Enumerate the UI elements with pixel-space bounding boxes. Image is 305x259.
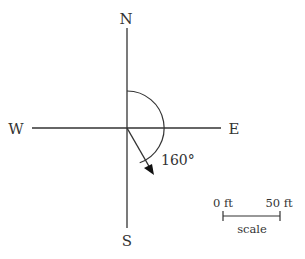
angle-label: 160° [161, 152, 195, 168]
angle-arc [127, 91, 164, 163]
scale-start-label: 0 ft [213, 196, 233, 210]
west-label: W [8, 120, 24, 138]
north-label: N [119, 10, 132, 28]
scale-end-label: 50 ft [265, 196, 293, 210]
bearing-arrow-head [144, 164, 154, 175]
scale-bar [223, 211, 280, 221]
scale-caption: scale [237, 222, 267, 236]
south-label: S [122, 232, 132, 250]
compass-diagram: N S W E 160° 0 ft 50 ft scale [0, 0, 305, 259]
bearing-arrow-shaft [127, 128, 150, 168]
east-label: E [229, 120, 240, 138]
